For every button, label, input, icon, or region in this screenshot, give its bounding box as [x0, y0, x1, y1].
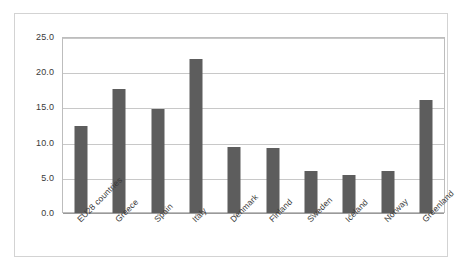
y-tick-label: 5.0	[41, 173, 54, 183]
bar-slot	[368, 37, 406, 213]
bar-slot	[292, 37, 330, 213]
bar[interactable]	[228, 147, 241, 213]
y-tick-label: 10.0	[36, 138, 54, 148]
x-axis: EU28 countriesGreeceSpainItalyDenmarkFin…	[62, 217, 445, 271]
bar-slot	[215, 37, 253, 213]
bar-slot	[62, 37, 100, 213]
bar[interactable]	[190, 59, 203, 213]
y-axis: 0.05.010.015.020.025.0	[15, 14, 62, 256]
bar[interactable]	[419, 100, 432, 213]
chart-frame: 0.05.010.015.020.025.0 EU28 countriesGre…	[14, 13, 448, 257]
bar-slot	[407, 37, 445, 213]
bar[interactable]	[113, 89, 126, 213]
y-tick-label: 20.0	[36, 67, 54, 77]
bar[interactable]	[75, 126, 88, 213]
bar[interactable]	[266, 148, 279, 213]
bar-slot	[177, 37, 215, 213]
bar-slot	[330, 37, 368, 213]
y-tick-label: 25.0	[36, 32, 54, 42]
bar-slot	[254, 37, 292, 213]
y-tick-label: 0.0	[41, 208, 54, 218]
bar[interactable]	[151, 109, 164, 213]
y-tick-label: 15.0	[36, 102, 54, 112]
bar-slot	[139, 37, 177, 213]
